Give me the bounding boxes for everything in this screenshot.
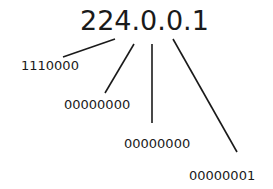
binary-label-octet-1: 1110000 [21,59,79,73]
binary-label-octet-2: 00000000 [64,98,130,112]
connector-octet-1 [63,39,115,57]
binary-label-octet-3: 00000000 [124,137,190,151]
binary-label-octet-4: 00000001 [189,169,255,183]
connector-lines [0,0,273,189]
connector-octet-2 [105,44,134,93]
